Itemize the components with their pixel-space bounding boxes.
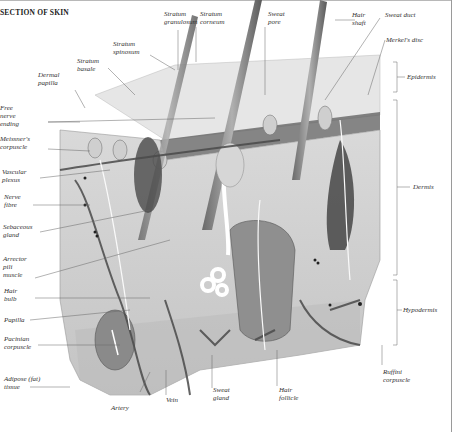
label-epidermis: Epidermis [407,73,436,81]
label-adipose-tissue: Adipose (fat) tissue [4,375,40,391]
label-papilla: Papilla [4,316,25,324]
label-sweat-duct: Sweat duct [385,11,416,19]
label-sweat-pore: Sweat pore [268,10,285,26]
sebaceous-lobes [216,143,244,187]
label-merkels-disc: Merkel's disc [386,36,423,44]
label-vein: Vein [166,396,178,404]
label-hair-follicle: Hair follicle [279,386,298,402]
label-dermis: Dermis [413,183,434,191]
label-stratum-basale: Stratum basale [77,57,99,73]
label-artery: Artery [111,404,129,412]
label-pacinian-corpuscle: Pacinian corpuscle [4,335,31,351]
label-free-nerve-ending: Free nerve ending [0,104,19,128]
label-sweat-gland: Sweat gland [213,386,230,402]
label-hair-shaft: Hair shaft [352,11,366,27]
label-stratum-corneum: Stratum corneum [200,10,225,26]
label-arrector-pili-muscle: Arrector pili muscle [3,255,27,279]
label-stratum-granulosum: Stratum granulosum [164,10,197,26]
label-nerve-fibre: Nerve fibre [4,193,21,209]
label-ruffini-corpuscle: Ruffini corpuscle [383,368,410,384]
label-stratum-spinosum: Stratum spinosum [113,40,139,56]
label-hair-bulb: Hair bulb [4,287,17,303]
label-meissners-corpuscle: Meissner's corpuscle [0,135,30,151]
label-vascular-plexus: Vascular plexus [2,168,27,184]
label-dermal-papilla: Dermal papilla [38,71,59,87]
label-sebaceous-gland: Sebaceous gland [3,223,33,239]
label-hypodermis: Hypodermis [403,306,437,314]
sebaceous-gland [134,137,162,213]
diagram-title: SECTION OF SKIN [0,8,69,17]
